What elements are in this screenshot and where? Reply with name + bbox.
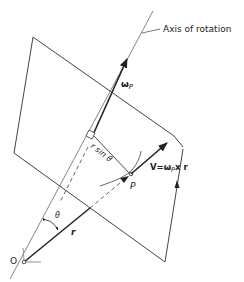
r-sin-theta-label: r sin θ: [89, 141, 114, 163]
origin-label: O: [10, 256, 17, 266]
axis-of-rotation: [10, 11, 153, 279]
axis-leader-line: [142, 29, 160, 33]
point-p-label: P: [130, 181, 136, 191]
dashed-axis-segment: [60, 147, 88, 202]
omega-label: ωP: [121, 79, 134, 91]
dashed-r-extension: [90, 178, 126, 208]
rotation-diagram: Axis of rotation ωP r sin θ r P V=ωPx r …: [0, 0, 244, 282]
origin-point: [22, 260, 26, 264]
right-angle-marker: [86, 130, 95, 139]
r-arrowhead-icon: [120, 176, 129, 183]
axis-label: Axis of rotation: [163, 24, 231, 34]
angle-theta-arc: [46, 220, 58, 230]
plane-edge-arrow-icon: [175, 180, 180, 188]
velocity-label: V=ωPx r: [150, 162, 188, 174]
theta-label: θ: [55, 211, 60, 220]
omega-vector: [92, 59, 127, 137]
origin-tick-vertical: [23, 248, 24, 260]
r-label: r: [71, 227, 76, 237]
